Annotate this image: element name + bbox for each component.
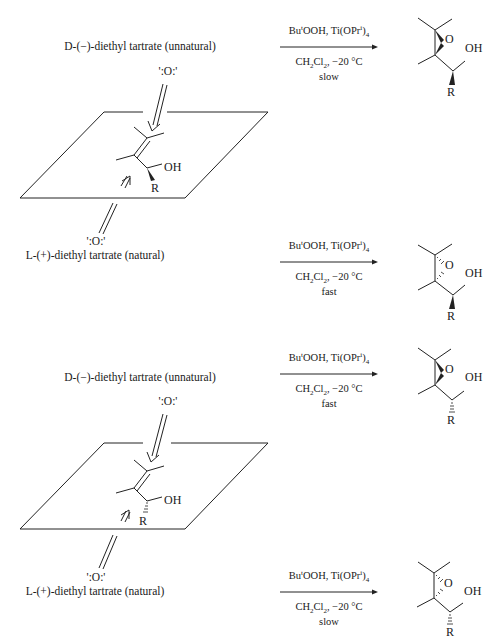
tartrate-label-unnatural: D-(−)-diethyl tartrate (unnatural) [64, 372, 215, 384]
double-arrow-up-icon [99, 510, 130, 569]
oxygen-label: ':O:' [159, 396, 178, 408]
atom-oh: OH [164, 494, 181, 506]
atom-oh: OH [465, 371, 482, 383]
allylic-alcohol-structure [116, 460, 164, 501]
panel-2-drawing [0, 0, 500, 641]
conditions-label: CH2Cl2, −20 °C [295, 602, 362, 613]
oxygen-label: ':O:' [87, 572, 106, 584]
atom-oh: OH [464, 585, 481, 597]
atom-r: R [139, 515, 147, 527]
rate-label: fast [321, 399, 336, 410]
hashed-bond-icon [449, 403, 455, 412]
rate-label: slow [319, 617, 339, 628]
reagents-label: ButOOH, Ti(OPri)4 [289, 353, 369, 364]
double-arrow-down-icon [147, 414, 167, 462]
atom-r: R [446, 626, 454, 638]
atom-r: R [447, 414, 455, 426]
atom-o: O [445, 363, 454, 375]
atom-o: O [444, 577, 453, 589]
conditions-label: CH2Cl2, −20 °C [295, 384, 362, 395]
scheme-panel-2: D-(−)-diethyl tartrate (unnatural) ':O:'… [0, 0, 500, 641]
hashed-bond-icon [143, 503, 148, 512]
epoxide-product-structure [417, 562, 463, 612]
tartrate-label-natural: L-(+)-diethyl tartrate (natural) [26, 586, 165, 598]
reagents-label: ButOOH, Ti(OPri)4 [289, 571, 369, 582]
